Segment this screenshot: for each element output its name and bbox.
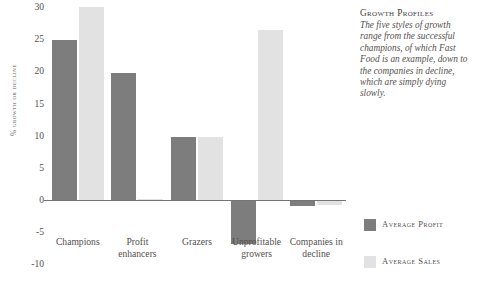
bar-group	[286, 0, 346, 232]
bar-chart: % Growth or Decline 302520151050-5-10 Ch…	[0, 0, 352, 305]
plot-area	[48, 0, 346, 232]
bar-profit	[52, 40, 77, 200]
y-tick-label: 10	[4, 130, 44, 141]
chart-legend: Average ProfitAverage Sales	[360, 218, 477, 292]
legend-item: Average Profit	[360, 218, 477, 231]
y-tick-label: 0	[4, 194, 44, 205]
bar-group	[167, 0, 227, 232]
bar-profit	[171, 137, 196, 200]
bar-sales	[79, 7, 104, 200]
sidebar-title: Growth Profiles	[360, 8, 434, 18]
y-axis-ticks: 302520151050-5-10	[0, 0, 44, 305]
chart-page: % Growth or Decline 302520151050-5-10 Ch…	[0, 0, 477, 305]
y-tick-label: 15	[4, 98, 44, 109]
zero-axis-line	[44, 200, 346, 201]
legend-label: Average Profit	[382, 219, 443, 229]
bar-series-container	[48, 0, 346, 232]
bar-group	[227, 0, 287, 232]
y-tick-label: 25	[4, 33, 44, 44]
legend-color-swatch	[364, 219, 376, 231]
y-tick-label: -5	[4, 226, 44, 237]
legend-label: Average Sales	[382, 256, 440, 266]
y-tick-label: 30	[4, 1, 44, 12]
bar-profit	[111, 73, 136, 200]
bar-sales	[258, 30, 283, 200]
y-tick-label: 5	[4, 162, 44, 173]
bar-group	[48, 0, 108, 232]
x-axis-labels: ChampionsProfitenhancersGrazersUnprofita…	[48, 236, 346, 296]
bar-sales	[198, 137, 223, 200]
y-tick-label: -10	[4, 258, 44, 269]
legend-item: Average Sales	[360, 255, 477, 268]
legend-color-swatch	[364, 256, 376, 268]
sidebar-body: The five styles of growth range from the…	[360, 20, 474, 100]
bar-group	[108, 0, 168, 232]
y-tick-label: 20	[4, 65, 44, 76]
x-tick-label: Companies indecline	[280, 236, 352, 259]
